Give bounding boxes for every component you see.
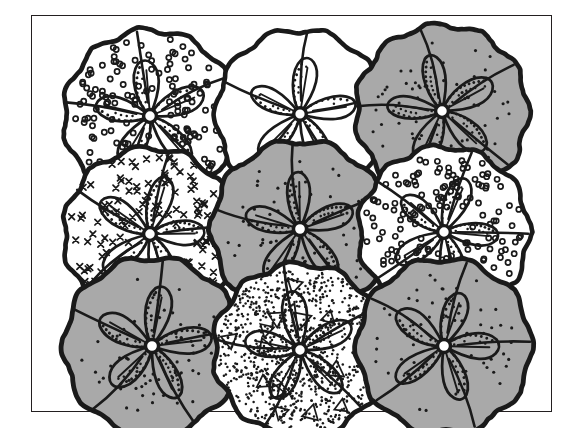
figure-root: [0, 0, 572, 428]
specimen-r3c3: [342, 244, 546, 428]
specimen-grid: [32, 16, 553, 413]
plate-frame: [31, 15, 552, 412]
